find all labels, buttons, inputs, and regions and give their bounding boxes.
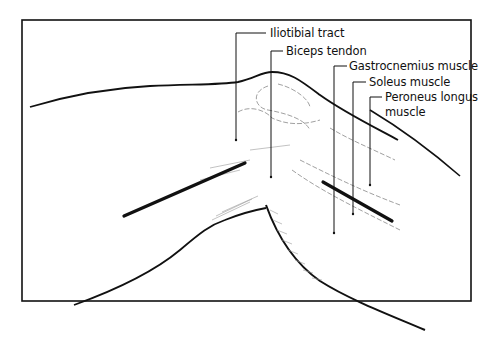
label-gastrocnemius-muscle: Gastrocnemius muscle (349, 60, 478, 73)
calf-posterior-contour (266, 205, 425, 330)
leader-biceps (271, 51, 283, 177)
calf-shading (270, 210, 322, 280)
label-biceps-tendon: Biceps tendon (286, 45, 367, 58)
leader-soleus (353, 82, 366, 214)
leader-gastrocnemius (334, 66, 347, 233)
label-peroneus-longus-muscle-line2: muscle (385, 106, 425, 119)
label-peroneus-longus-muscle-line1: Peroneus longus (385, 91, 478, 104)
label-iliotibial-tract: Iliotibial tract (270, 27, 344, 40)
thigh-upper-contour (30, 72, 398, 140)
leader-iliotibial (236, 33, 266, 140)
leader-endpoints (235, 139, 371, 234)
thigh-lower-contour (74, 208, 266, 305)
incision-line-thigh (124, 163, 245, 216)
popliteal-shading (200, 145, 290, 220)
label-soleus-muscle: Soleus muscle (369, 76, 450, 89)
knee-anatomy-illustration (0, 0, 491, 357)
shin-anterior-contour (370, 110, 460, 176)
